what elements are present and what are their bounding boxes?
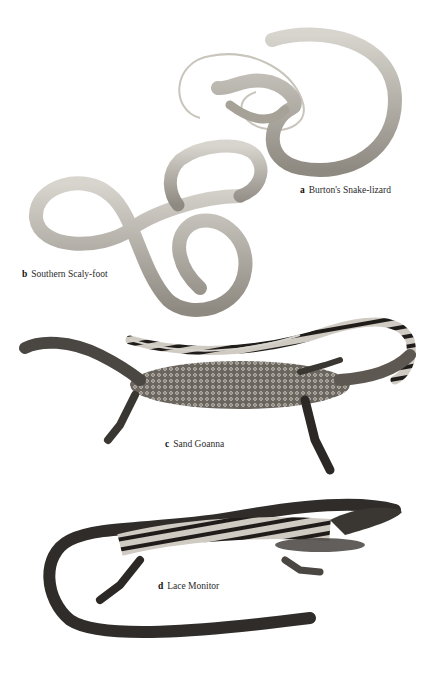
caption-lace-monitor: dLace Monitor <box>158 582 219 592</box>
caption-letter: b <box>22 269 27 279</box>
caption-name: Lace Monitor <box>167 581 219 591</box>
caption-name: Sand Goanna <box>173 439 224 449</box>
caption-letter: a <box>300 185 305 195</box>
southern-scaly-foot-illustration <box>36 146 261 310</box>
caption-name: Southern Scaly-foot <box>31 269 107 279</box>
lace-monitor-illustration <box>49 505 402 632</box>
caption-burtons-snake-lizard: aBurton's Snake-lizard <box>300 186 391 196</box>
caption-name: Burton's Snake-lizard <box>309 185 391 195</box>
caption-letter: d <box>158 581 163 591</box>
caption-southern-scaly-foot: bSouthern Scaly-foot <box>22 270 108 280</box>
caption-sand-goanna: cSand Goanna <box>165 440 224 450</box>
caption-letter: c <box>165 439 169 449</box>
reptile-illustrations <box>0 0 439 680</box>
illustration-plate: aBurton's Snake-lizard bSouthern Scaly-f… <box>0 0 439 680</box>
